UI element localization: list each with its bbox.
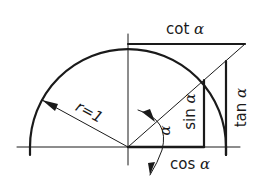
tan-alpha: α (232, 88, 250, 98)
radius-arrowhead (42, 100, 58, 111)
cos-text: cos (170, 155, 195, 173)
cot-alpha: α (194, 20, 204, 38)
angle-label: α (158, 125, 173, 135)
sin-alpha: α (181, 93, 199, 103)
diagram-graphic (0, 0, 265, 184)
cot-label: cot α (166, 22, 204, 37)
sin-label: sin α (183, 93, 198, 129)
cos-label: cos α (170, 157, 210, 172)
cos-alpha: α (200, 155, 210, 173)
sin-text: sin (181, 108, 199, 130)
cot-text: cot (166, 20, 189, 38)
tan-label: tan α (234, 88, 249, 128)
unit-circle-diagram: r=1 cot α sin α tan α cos α α (0, 0, 265, 184)
angle-arrow-top (142, 109, 155, 122)
tan-text: tan (232, 103, 250, 128)
